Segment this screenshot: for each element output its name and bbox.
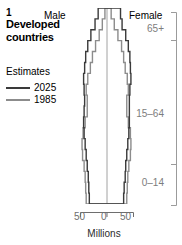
series-1985-female-outline: [107, 8, 131, 204]
legend-label-2025: 2025: [34, 82, 56, 94]
legend-item-2025: 2025: [6, 82, 86, 94]
x-tick-label-left: 50: [74, 211, 85, 222]
pyramid-svg: [80, 8, 134, 204]
figure-title: Developed countries: [6, 18, 84, 43]
age-label-15-64: 15–64: [136, 108, 164, 119]
age-bracket-svg: [168, 12, 178, 206]
pyramid-plot-area: [80, 8, 134, 204]
series-1985-male-outline: [82, 8, 107, 204]
legend-swatch-2025: [6, 87, 30, 89]
legend-title: Estimates: [6, 66, 86, 78]
legend-item-1985: 1985: [6, 94, 86, 106]
legend-swatch-1985: [6, 99, 30, 101]
x-tick-label-center: 0: [101, 211, 107, 222]
x-axis: [80, 204, 134, 210]
x-axis-title: Millions: [0, 228, 182, 239]
legend-label-1985: 1985: [34, 94, 56, 106]
x-tick-label-right: 50: [120, 211, 131, 222]
female-side-label: Female: [129, 10, 162, 21]
age-group-bracket: [168, 12, 178, 206]
figure-number: 1: [6, 7, 12, 18]
legend: Estimates 2025 1985: [6, 66, 86, 106]
male-side-label: Male: [44, 10, 66, 21]
population-pyramid-figure: 1 Developed countries Estimates 2025 198…: [0, 0, 182, 245]
age-label-65plus: 65+: [147, 23, 164, 34]
age-label-0-14: 0–14: [142, 177, 164, 188]
